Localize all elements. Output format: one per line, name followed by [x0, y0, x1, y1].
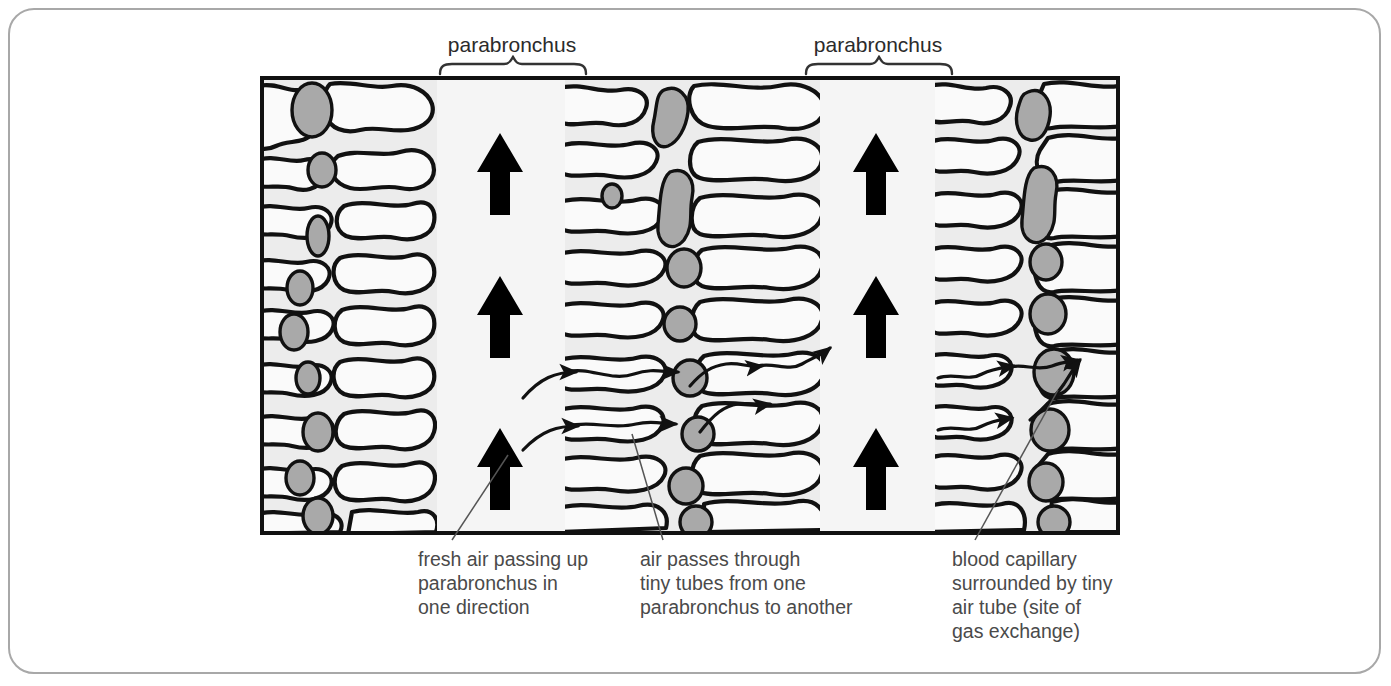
tissue-column-middle: [560, 84, 825, 538]
caption-line: parabronchus in: [418, 572, 558, 594]
caption-fresh-air: fresh air passing up parabronchus in one…: [418, 548, 588, 618]
caption-line: blood capillary: [952, 548, 1077, 570]
caption-line: fresh air passing up: [418, 548, 588, 570]
caption-line: air passes through: [640, 548, 800, 570]
top-label-group: parabronchus parabronchus: [440, 33, 952, 74]
caption-line: tiny tubes from one: [640, 572, 806, 594]
caption-line: surrounded by tiny: [952, 572, 1113, 594]
caption-line: parabronchus to another: [640, 596, 853, 618]
caption-line: air tube (site of: [952, 596, 1082, 618]
caption-air-passes: air passes through tiny tubes from one p…: [640, 548, 853, 618]
caption-line: gas exchange): [952, 620, 1080, 642]
caption-blood-capillary: blood capillary surrounded by tiny air t…: [952, 548, 1113, 642]
parabronchus-brace-right: [806, 57, 952, 74]
diagram-stage: parabronchus parabronchus fresh air pass…: [0, 0, 1391, 686]
caption-line: one direction: [418, 596, 530, 618]
parabronchus-label-right: parabronchus: [814, 33, 942, 56]
caption-group: fresh air passing up parabronchus in one…: [418, 548, 1113, 642]
parabronchus-label-left: parabronchus: [448, 33, 576, 56]
parabronchus-brace-left: [440, 57, 586, 74]
